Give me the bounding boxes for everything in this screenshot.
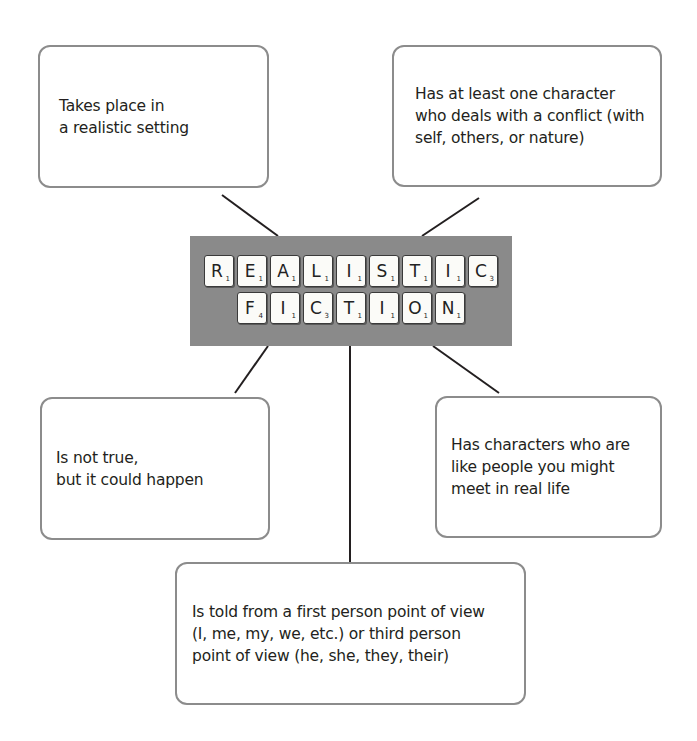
connector-bottom-right bbox=[433, 346, 499, 393]
letter-tile: R1 bbox=[204, 255, 234, 287]
letter-tile: A1 bbox=[270, 255, 300, 287]
letter-tile: S1 bbox=[369, 255, 399, 287]
tile-row-fiction: F4 I1 C3 T1 I1 O1 N1 bbox=[190, 292, 512, 324]
node-top-left: Takes place in a realistic setting bbox=[38, 45, 269, 188]
node-bottom-right: Has characters who are like people you m… bbox=[435, 396, 662, 538]
tile-row-realistic: R1 E1 A1 L1 I1 S1 T1 I1 C3 bbox=[190, 255, 512, 287]
letter-tile: C3 bbox=[468, 255, 498, 287]
connector-top-right bbox=[422, 198, 479, 236]
letter-tile: T1 bbox=[336, 292, 366, 324]
letter-tile: I1 bbox=[336, 255, 366, 287]
title-banner: R1 E1 A1 L1 I1 S1 T1 I1 C3 F4 I1 C3 T1 I… bbox=[190, 236, 512, 346]
letter-tile: I1 bbox=[435, 255, 465, 287]
node-text: Is told from a first person point of vie… bbox=[192, 601, 485, 667]
node-top-right: Has at least one character who deals wit… bbox=[392, 45, 662, 187]
connector-top-left bbox=[222, 195, 278, 236]
node-text: Takes place in a realistic setting bbox=[59, 95, 189, 139]
letter-tile: E1 bbox=[237, 255, 267, 287]
letter-tile: C3 bbox=[303, 292, 333, 324]
letter-tile: T1 bbox=[402, 255, 432, 287]
connector-bottom-left bbox=[235, 346, 268, 393]
letter-tile: I1 bbox=[369, 292, 399, 324]
node-bottom: Is told from a first person point of vie… bbox=[175, 562, 526, 705]
node-text: Has at least one character who deals wit… bbox=[415, 83, 645, 149]
letter-tile: N1 bbox=[435, 292, 465, 324]
node-text: Has characters who are like people you m… bbox=[451, 434, 630, 500]
letter-tile: L1 bbox=[303, 255, 333, 287]
node-bottom-left: Is not true, but it could happen bbox=[40, 397, 270, 540]
node-text: Is not true, but it could happen bbox=[56, 447, 203, 491]
letter-tile: F4 bbox=[237, 292, 267, 324]
letter-tile: I1 bbox=[270, 292, 300, 324]
letter-tile: O1 bbox=[402, 292, 432, 324]
